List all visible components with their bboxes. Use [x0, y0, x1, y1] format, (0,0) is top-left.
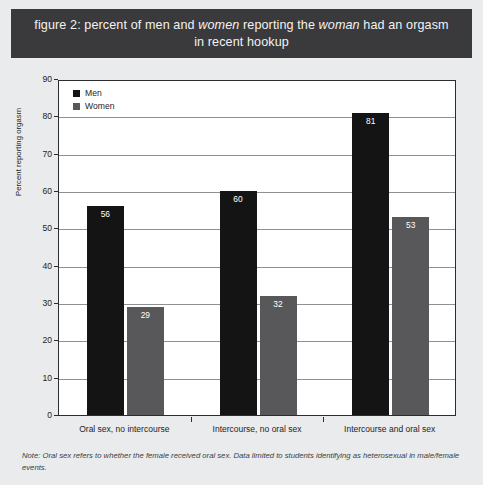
- bar-men-1[interactable]: 56: [87, 206, 124, 415]
- bar-value-label: 81: [352, 117, 389, 126]
- bar-value-label: 56: [87, 210, 124, 219]
- y-axis-label: Percent reporting orgasm: [14, 108, 23, 196]
- legend-item-label: Women: [85, 101, 114, 111]
- bar-value-label: 32: [260, 300, 297, 309]
- legend-swatch-icon: [73, 103, 80, 110]
- y-axis-tick-label: 60: [26, 187, 52, 196]
- bar-men-3[interactable]: 81: [352, 113, 389, 415]
- y-axis-tick-label: 80: [26, 112, 52, 121]
- y-axis-tick-label: 0: [26, 411, 52, 420]
- bar-men-2[interactable]: 60: [220, 191, 257, 415]
- bar-value-label: 60: [220, 195, 257, 204]
- bar-women-2[interactable]: 32: [260, 296, 297, 415]
- title-line-2: in recent hookup: [194, 35, 289, 49]
- x-axis-category-label: Intercourse and oral sex: [310, 424, 470, 434]
- legend-item-label: Men: [85, 88, 102, 98]
- bars-layer: 562960328153: [59, 81, 455, 415]
- figure-title-band: figure 2: percent of men and women repor…: [11, 9, 472, 58]
- bar-value-label: 29: [127, 311, 164, 320]
- legend-swatch-icon: [73, 90, 80, 97]
- y-axis-tick-label: 30: [26, 299, 52, 308]
- y-axis-tick-label: 10: [26, 374, 52, 383]
- legend-item-women[interactable]: Women: [73, 100, 114, 112]
- x-axis-tick-mark: [191, 417, 192, 422]
- y-axis-tick-label: 90: [26, 75, 52, 84]
- bar-value-label: 53: [392, 221, 429, 230]
- bar-women-3[interactable]: 53: [392, 217, 429, 415]
- page-title: figure 2: percent of men and women repor…: [16, 17, 466, 51]
- figure-container: figure 2: percent of men and women repor…: [0, 0, 483, 485]
- title-part-1: figure 2: percent of men and: [34, 18, 198, 32]
- y-axis-tick-label: 20: [26, 336, 52, 345]
- legend: MenWomen: [73, 87, 114, 113]
- legend-item-men[interactable]: Men: [73, 87, 114, 99]
- x-axis-tick-mark: [323, 417, 324, 422]
- title-emphasis-women: women: [198, 18, 239, 32]
- figure-note: Note: Oral sex refers to whether the fem…: [22, 450, 470, 473]
- y-axis-tick-label: 50: [26, 224, 52, 233]
- title-part-2: reporting the: [239, 18, 318, 32]
- plot-area: 562960328153 MenWomen: [58, 80, 456, 416]
- y-axis-tick-label: 70: [26, 150, 52, 159]
- bar-women-1[interactable]: 29: [127, 307, 164, 415]
- title-part-3: had an orgasm: [360, 18, 449, 32]
- y-axis-tick-label: 40: [26, 262, 52, 271]
- title-emphasis-woman: woman: [319, 18, 360, 32]
